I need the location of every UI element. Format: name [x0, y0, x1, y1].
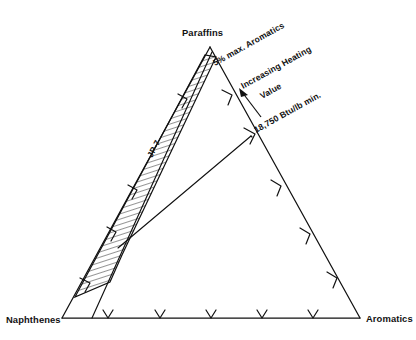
diagram-canvas: Paraffins Naphthenes Aromatics 5% max. A… [0, 0, 416, 340]
tick-right-3 [271, 180, 281, 196]
label-aromatics: Aromatics [366, 313, 413, 324]
tick-right-1 [222, 90, 232, 105]
label-naphthenes: Naphthenes [6, 314, 61, 325]
edge-paraffins-aromatics [210, 47, 360, 318]
tick-right-2 [244, 128, 255, 144]
line-naphthenes-offset-to-apex [92, 52, 212, 318]
tick-bottom-5 [308, 310, 318, 318]
tick-bottom-4 [257, 310, 267, 318]
label-paraffins: Paraffins [182, 27, 223, 38]
tick-right-4 [300, 228, 310, 244]
line-heating-value-min-right [251, 136, 252, 137]
ternary-diagram: Paraffins Naphthenes Aromatics 5% max. A… [0, 0, 416, 340]
ticks-bottom-edge [103, 310, 318, 318]
label-increasing-heating-value: Value [258, 81, 283, 101]
tick-bottom-3 [206, 310, 216, 318]
tick-bottom-2 [155, 310, 165, 318]
interior-lines [92, 52, 252, 318]
tick-bottom-1 [103, 310, 113, 318]
